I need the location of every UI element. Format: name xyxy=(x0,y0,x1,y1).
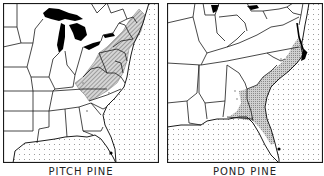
pond-pine-map xyxy=(167,3,323,163)
pitch-pine-map xyxy=(3,3,159,163)
pond-pine-caption: POND PINE xyxy=(167,166,323,176)
pitch-pine-caption: PITCH PINE xyxy=(3,166,159,176)
range-outlier xyxy=(277,147,280,150)
range-outlier xyxy=(109,151,112,154)
pitch-pine-map-graphic xyxy=(3,3,159,163)
pond-pine-map-graphic xyxy=(167,3,323,163)
